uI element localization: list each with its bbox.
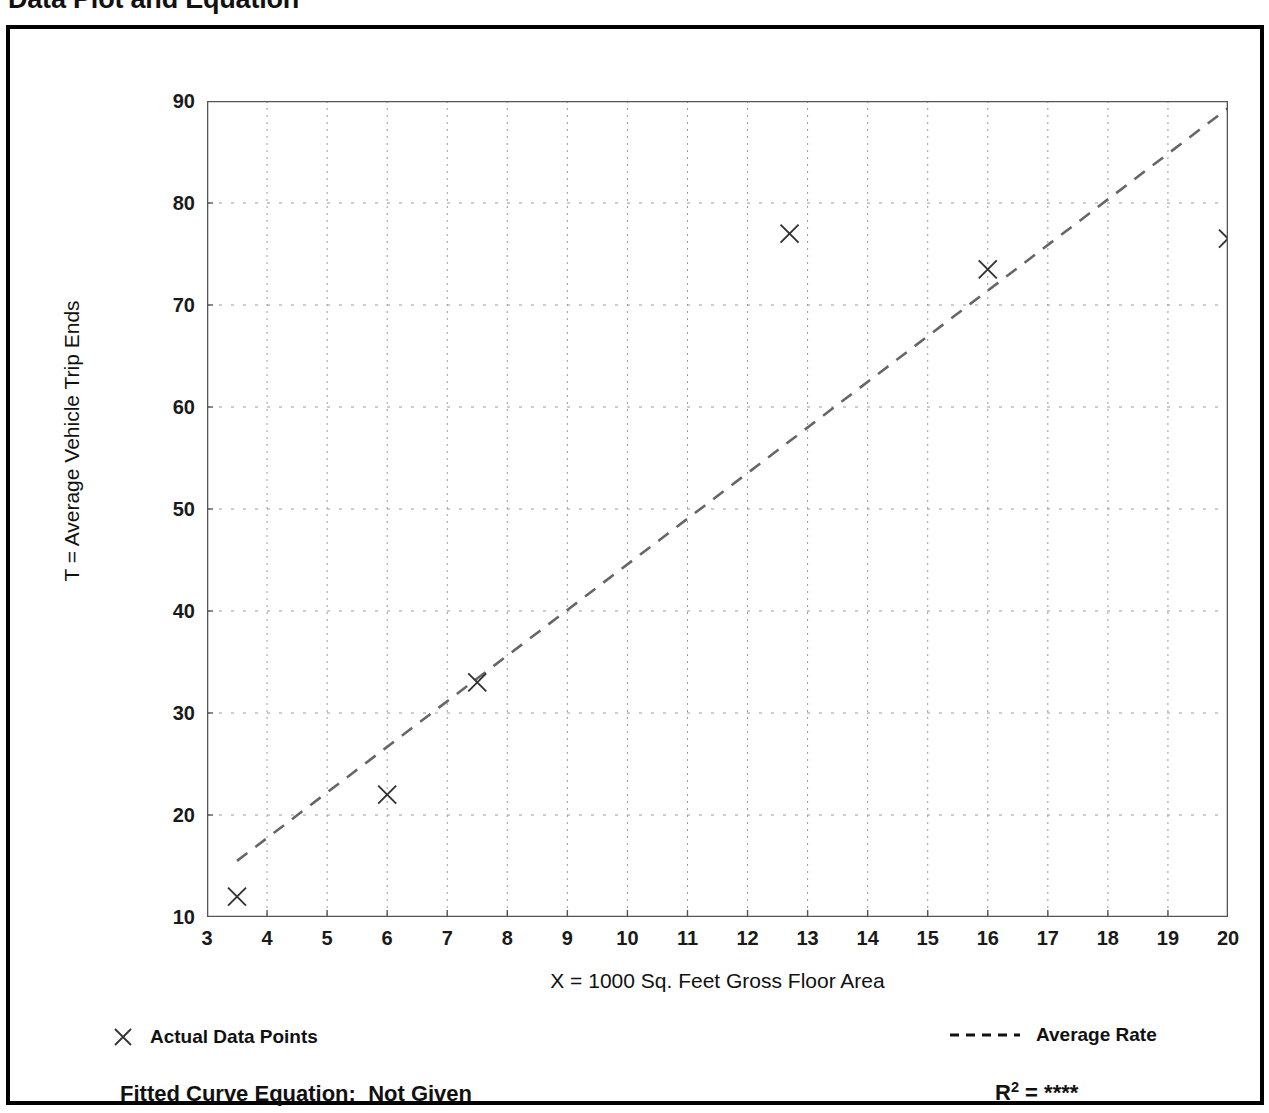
- y-tick-label: 80: [173, 192, 195, 215]
- x-tick-label: 13: [796, 927, 818, 950]
- x-tick-label: 7: [442, 927, 453, 950]
- x-tick-label: 11: [677, 927, 698, 950]
- fitted-curve-equation-label: Fitted Curve Equation:: [120, 1081, 356, 1106]
- x-tick-label: 16: [977, 927, 999, 950]
- y-tick-label: 20: [173, 804, 195, 827]
- y-tick-label: 70: [173, 294, 195, 317]
- r-squared-stars: ****: [1044, 1080, 1078, 1105]
- legend-item-actual-data-points: Actual Data Points: [110, 1024, 318, 1050]
- r-squared-equals: =: [1025, 1080, 1038, 1105]
- x-tick-label: 3: [201, 927, 212, 950]
- chart-page: Data Plot and Equation 10203040506070809…: [0, 0, 1269, 1113]
- legend-label-actual-data-points: Actual Data Points: [150, 1026, 318, 1048]
- x-axis-title: X = 1000 Sq. Feet Gross Floor Area: [207, 969, 1228, 993]
- x-tick-label: 5: [322, 927, 333, 950]
- x-tick-label: 12: [736, 927, 758, 950]
- data-point-markers: [228, 225, 1228, 906]
- x-marker-icon: [110, 1024, 136, 1050]
- x-tick-label: 8: [502, 927, 513, 950]
- x-axis-tick-labels: 34567891011121314151617181920: [207, 927, 1228, 961]
- y-tick-label: 60: [173, 396, 195, 419]
- chart-frame: 102030405060708090 345678910111213141516…: [6, 25, 1264, 1105]
- axis-tick-marks: [207, 101, 1228, 917]
- x-tick-label: 20: [1217, 927, 1239, 950]
- r-squared-value: R2 = ****: [995, 1079, 1078, 1106]
- fitted-curve-equation-value: Not Given: [368, 1081, 472, 1106]
- grid-major-horizontal: [207, 203, 1228, 815]
- legend-label-average-rate: Average Rate: [1036, 1024, 1157, 1046]
- fitted-curve-equation: Fitted Curve Equation: Not Given: [120, 1081, 472, 1107]
- x-tick-label: 19: [1157, 927, 1179, 950]
- x-tick-label: 14: [857, 927, 879, 950]
- y-tick-label: 90: [173, 90, 195, 113]
- plot-svg: [207, 101, 1228, 917]
- x-tick-label: 4: [261, 927, 272, 950]
- legend-item-average-rate: Average Rate: [948, 1024, 1157, 1046]
- axis-spines: [207, 101, 1228, 917]
- x-tick-label: 17: [1037, 927, 1059, 950]
- x-tick-label: 15: [917, 927, 939, 950]
- x-tick-label: 10: [616, 927, 638, 950]
- grid-major-vertical: [267, 101, 1168, 917]
- x-tick-label: 9: [562, 927, 573, 950]
- page-title: Data Plot and Equation: [8, 0, 299, 15]
- y-axis-tick-labels: 102030405060708090: [150, 101, 195, 917]
- y-tick-label: 30: [173, 702, 195, 725]
- r-squared-exponent: 2: [1011, 1079, 1019, 1095]
- r-squared-symbol: R: [995, 1080, 1011, 1105]
- x-tick-label: 6: [382, 927, 393, 950]
- plot-area: [207, 101, 1228, 917]
- y-tick-label: 50: [173, 498, 195, 521]
- average-rate-line: [237, 108, 1228, 861]
- y-axis-title: T = Average Vehicle Trip Ends: [60, 231, 84, 651]
- y-tick-label: 10: [173, 906, 195, 929]
- y-tick-label: 40: [173, 600, 195, 623]
- dashed-line-icon: [948, 1028, 1022, 1042]
- x-tick-label: 18: [1097, 927, 1119, 950]
